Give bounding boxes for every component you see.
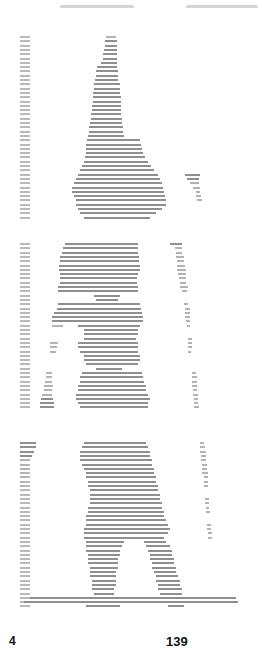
- plot-row-segment: [80, 351, 138, 353]
- row-label: [20, 70, 30, 72]
- plot-row-segment: [90, 502, 162, 504]
- plot-row-segment: [58, 286, 138, 288]
- plot-row-segment: [80, 376, 143, 378]
- plot-row-segment: [85, 156, 145, 158]
- plot-row-segment: [82, 446, 148, 448]
- row-label: [20, 567, 30, 569]
- plot-row-segment: [80, 406, 148, 408]
- plot-row-segment: [60, 277, 137, 279]
- plot-row-segment: [72, 191, 164, 193]
- row-label: [20, 312, 30, 314]
- plot-row-segment: [193, 394, 198, 396]
- plot-row-segment: [86, 148, 142, 150]
- plot-row-segment: [192, 372, 196, 374]
- plot-row-segment: [41, 398, 53, 400]
- row-label: [20, 558, 30, 560]
- row-label: [20, 588, 30, 590]
- plot-row-segment: [74, 195, 165, 197]
- plot-row-segment: [200, 451, 206, 453]
- plot-row-segment: [86, 605, 120, 607]
- row-label: [20, 187, 30, 189]
- row-label: [20, 53, 30, 55]
- plot-row-segment: [207, 524, 211, 526]
- plot-row-segment: [88, 562, 118, 564]
- plot-row-segment: [103, 58, 117, 60]
- plot-row-segment: [150, 554, 172, 556]
- plot-row-segment: [59, 269, 140, 271]
- plot-row-segment: [96, 368, 122, 370]
- plot-row-segment: [91, 113, 121, 115]
- plot-row-segment: [92, 584, 116, 586]
- plot-row-segment: [84, 528, 170, 530]
- plot-row-segment: [80, 455, 150, 457]
- plot-row-segment: [24, 601, 238, 603]
- row-label: [20, 554, 30, 556]
- plot-row-segment: [44, 389, 52, 391]
- plot-row-segment: [193, 389, 197, 391]
- plot-row-segment: [86, 519, 166, 521]
- plot-row-segment: [76, 394, 148, 396]
- plot-row-segment: [92, 588, 114, 590]
- plot-row-segment: [192, 385, 197, 387]
- plot-row-segment: [176, 256, 184, 258]
- row-label: [20, 126, 30, 128]
- plot-row-segment: [90, 122, 122, 124]
- row-label: [20, 49, 30, 51]
- plot-row-segment: [152, 562, 174, 564]
- plot-row-segment: [188, 346, 192, 348]
- row-label: [20, 605, 30, 607]
- row-label: [20, 191, 30, 193]
- row-label: [20, 346, 30, 348]
- row-label: [20, 62, 30, 64]
- plot-row-segment: [20, 485, 24, 487]
- plot-row-segment: [177, 260, 184, 262]
- plot-row-segment: [190, 182, 199, 184]
- row-label: [20, 286, 30, 288]
- row-label: [20, 550, 30, 552]
- plot-row-segment: [59, 265, 140, 267]
- plot-row-segment: [207, 528, 211, 530]
- plot-row-segment: [52, 325, 63, 327]
- plot-row-segment: [206, 511, 210, 513]
- plot-row-segment: [201, 459, 206, 461]
- plot-row-segment: [86, 550, 120, 552]
- plot-row-segment: [20, 442, 36, 444]
- plot-row-segment: [20, 446, 36, 448]
- plot-row-segment: [150, 558, 174, 560]
- plot-row-segment: [90, 575, 116, 577]
- plot-row-segment: [92, 580, 116, 582]
- plot-row-segment: [84, 329, 138, 331]
- plot-row-segment: [185, 308, 190, 310]
- plot-row-segment: [90, 494, 160, 496]
- row-label: [20, 394, 30, 396]
- plot-row-segment: [192, 376, 197, 378]
- row-label: [20, 256, 30, 258]
- plot-row-segment: [78, 342, 138, 344]
- plot-row-segment: [86, 515, 164, 517]
- plot-row-segment: [44, 385, 53, 387]
- plot-row-segment: [30, 597, 236, 599]
- plot-row-segment: [60, 260, 139, 262]
- plot-row-segment: [156, 580, 180, 582]
- row-label: [20, 545, 30, 547]
- row-label: [20, 144, 30, 146]
- plot-row-segment: [84, 537, 164, 539]
- plot-row-segment: [208, 532, 212, 534]
- row-label: [20, 277, 30, 279]
- plot-row-segment: [88, 485, 158, 487]
- plot-row-segment: [196, 191, 200, 193]
- row-label: [20, 528, 30, 530]
- plot-row-segment: [97, 66, 117, 68]
- plot-row-segment: [84, 333, 138, 335]
- plot-row-segment: [45, 381, 52, 383]
- plot-row-segment: [63, 247, 138, 249]
- plot-row-segment: [80, 169, 154, 171]
- plot-row-segment: [202, 472, 208, 474]
- plot-row-segment: [87, 139, 140, 141]
- row-label: [20, 282, 30, 284]
- plot-row-segment: [88, 135, 124, 137]
- row-label: [20, 204, 30, 206]
- plot-row-segment: [52, 316, 143, 318]
- row-label: [20, 351, 30, 353]
- plot-row-segment: [78, 325, 140, 327]
